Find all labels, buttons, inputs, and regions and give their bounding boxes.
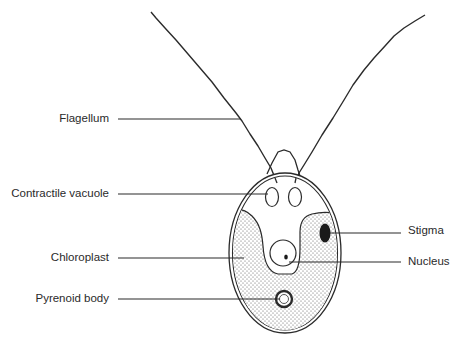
nucleolus — [284, 254, 288, 259]
right-flagellum — [296, 15, 425, 180]
contractile-vacuole-right — [289, 188, 302, 207]
label-stigma: Stigma — [408, 225, 444, 237]
label-contractile-vacuole: Contractile vacuole — [11, 188, 109, 200]
label-nucleus: Nucleus — [408, 256, 450, 268]
contractile-vacuole-left — [266, 188, 279, 207]
label-chloroplast: Chloroplast — [51, 252, 109, 264]
label-pyrenoid-body: Pyrenoid body — [35, 293, 109, 305]
pyrenoid-core — [280, 295, 289, 304]
label-flagellum: Flagellum — [59, 113, 109, 125]
stigma — [320, 224, 331, 243]
left-flagellum — [151, 12, 275, 178]
